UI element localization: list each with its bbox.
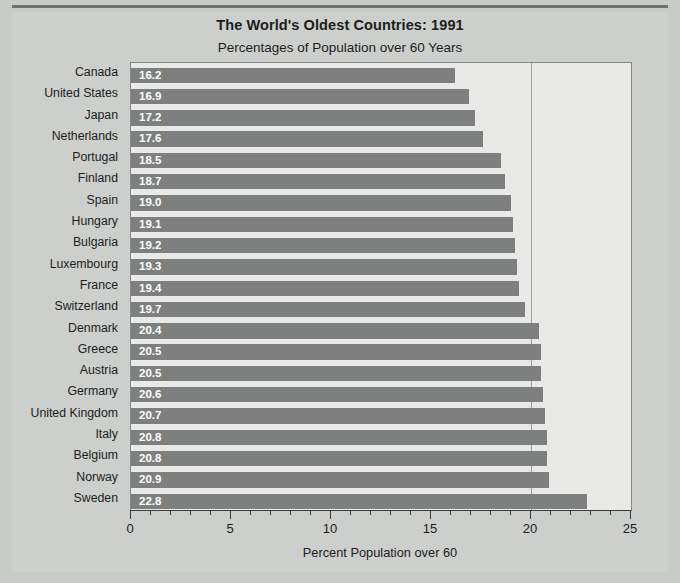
category-label: Canada bbox=[0, 62, 124, 83]
category-label: Belgium bbox=[0, 445, 124, 466]
x-tick-minor bbox=[350, 510, 351, 515]
bar-row: 19.7 bbox=[131, 297, 631, 318]
x-tick-minor bbox=[470, 510, 471, 515]
bar-value-label: 20.6 bbox=[139, 387, 161, 402]
category-axis-labels: CanadaUnited StatesJapanNetherlandsPortu… bbox=[0, 62, 124, 509]
bar-row: 20.4 bbox=[131, 319, 631, 340]
category-label: Denmark bbox=[0, 318, 124, 339]
bar-row: 19.2 bbox=[131, 233, 631, 254]
category-label: Spain bbox=[0, 190, 124, 211]
bar: 16.9 bbox=[131, 89, 469, 104]
x-tick-label: 10 bbox=[323, 521, 337, 536]
bar-row: 18.7 bbox=[131, 169, 631, 190]
bar-row: 17.2 bbox=[131, 106, 631, 127]
x-tick-minor bbox=[270, 510, 271, 515]
bar-row: 20.5 bbox=[131, 340, 631, 361]
x-tick-minor bbox=[370, 510, 371, 515]
bar-row: 20.7 bbox=[131, 404, 631, 425]
bar-value-label: 20.9 bbox=[139, 472, 161, 487]
bar-value-label: 18.7 bbox=[139, 174, 161, 189]
x-tick-minor bbox=[610, 510, 611, 515]
x-tick-major bbox=[130, 510, 131, 519]
bar-value-label: 17.6 bbox=[139, 131, 161, 146]
plot-area: 16.216.917.217.618.518.719.019.119.219.3… bbox=[130, 62, 632, 511]
bar-value-label: 20.5 bbox=[139, 344, 161, 359]
x-axis-title: Percent Population over 60 bbox=[130, 545, 630, 560]
category-label: United Kingdom bbox=[0, 403, 124, 424]
bar: 19.4 bbox=[131, 281, 519, 296]
x-tick-minor bbox=[390, 510, 391, 515]
x-tick-major bbox=[530, 510, 531, 519]
chart-title: The World's Oldest Countries: 1991 bbox=[0, 16, 680, 35]
bar-value-label: 20.5 bbox=[139, 366, 161, 381]
category-label: Sweden bbox=[0, 488, 124, 509]
bar-row: 16.9 bbox=[131, 84, 631, 105]
x-tick-minor bbox=[210, 510, 211, 515]
x-tick-minor bbox=[570, 510, 571, 515]
bar: 20.5 bbox=[131, 344, 541, 359]
bar: 20.4 bbox=[131, 323, 539, 338]
x-tick-minor bbox=[410, 510, 411, 515]
bar-row: 19.0 bbox=[131, 191, 631, 212]
bar-row: 19.3 bbox=[131, 255, 631, 276]
x-tick-minor bbox=[450, 510, 451, 515]
category-label: Hungary bbox=[0, 211, 124, 232]
bar-row: 16.2 bbox=[131, 63, 631, 84]
x-tick-minor bbox=[510, 510, 511, 515]
bar-row: 19.1 bbox=[131, 212, 631, 233]
bar-row: 20.8 bbox=[131, 425, 631, 446]
bar-row: 20.6 bbox=[131, 382, 631, 403]
x-tick-major bbox=[430, 510, 431, 519]
bar-series: 16.216.917.217.618.518.719.019.119.219.3… bbox=[131, 63, 631, 510]
x-tick-major bbox=[230, 510, 231, 519]
category-label: Bulgaria bbox=[0, 232, 124, 253]
bar: 19.1 bbox=[131, 217, 513, 232]
bar: 19.7 bbox=[131, 302, 525, 317]
bar: 20.8 bbox=[131, 451, 547, 466]
x-tick-minor bbox=[190, 510, 191, 515]
bar: 16.2 bbox=[131, 68, 455, 83]
bar-value-label: 20.8 bbox=[139, 430, 161, 445]
category-label: Norway bbox=[0, 467, 124, 488]
category-label: United States bbox=[0, 83, 124, 104]
x-tick-minor bbox=[290, 510, 291, 515]
x-tick-minor bbox=[310, 510, 311, 515]
bar-value-label: 20.7 bbox=[139, 408, 161, 423]
bar-value-label: 17.2 bbox=[139, 110, 161, 125]
x-tick-major bbox=[330, 510, 331, 519]
bar-value-label: 19.3 bbox=[139, 259, 161, 274]
bar-value-label: 19.7 bbox=[139, 302, 161, 317]
x-tick-label: 0 bbox=[126, 521, 133, 536]
bar-row: 17.6 bbox=[131, 127, 631, 148]
title-block: The World's Oldest Countries: 1991 Perce… bbox=[0, 16, 680, 57]
chart-page: The World's Oldest Countries: 1991 Perce… bbox=[0, 0, 680, 583]
bar: 18.5 bbox=[131, 153, 501, 168]
bar: 20.8 bbox=[131, 430, 547, 445]
category-label: Luxembourg bbox=[0, 254, 124, 275]
category-label: Germany bbox=[0, 381, 124, 402]
bar-value-label: 16.9 bbox=[139, 89, 161, 104]
bar: 19.3 bbox=[131, 259, 517, 274]
bar: 19.2 bbox=[131, 238, 515, 253]
bar-value-label: 19.0 bbox=[139, 195, 161, 210]
bar-row: 20.5 bbox=[131, 361, 631, 382]
bar-value-label: 19.4 bbox=[139, 281, 161, 296]
category-label: Austria bbox=[0, 360, 124, 381]
bar: 20.7 bbox=[131, 408, 545, 423]
bar: 18.7 bbox=[131, 174, 505, 189]
x-tick-label: 15 bbox=[423, 521, 437, 536]
x-tick-minor bbox=[250, 510, 251, 515]
bar-value-label: 16.2 bbox=[139, 68, 161, 83]
bar: 20.9 bbox=[131, 472, 549, 487]
bar: 20.5 bbox=[131, 366, 541, 381]
bar: 17.2 bbox=[131, 110, 475, 125]
bar: 17.6 bbox=[131, 131, 483, 146]
category-label: Portugal bbox=[0, 147, 124, 168]
category-label: Greece bbox=[0, 339, 124, 360]
bar: 19.0 bbox=[131, 195, 511, 210]
category-label: Italy bbox=[0, 424, 124, 445]
x-tick-minor bbox=[150, 510, 151, 515]
category-label: France bbox=[0, 275, 124, 296]
category-label: Netherlands bbox=[0, 126, 124, 147]
category-label: Japan bbox=[0, 105, 124, 126]
